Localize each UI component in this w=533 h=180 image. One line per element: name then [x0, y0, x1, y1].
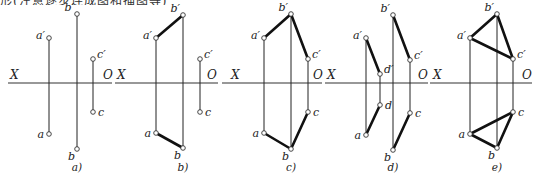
point-label-c: c	[205, 106, 211, 119]
point-label-c: c	[313, 106, 319, 119]
point-a-icon	[47, 132, 52, 137]
x-axis-label: X	[326, 68, 336, 82]
point-label-b-prime: b′	[64, 1, 74, 14]
panel-a: XOa′b′c′abca)	[8, 1, 113, 173]
point-label-a: a	[252, 127, 259, 140]
point-b-icon	[391, 148, 396, 153]
point-label-d-prime: d′	[384, 63, 394, 76]
edge-a-b	[156, 133, 183, 148]
point-c-icon	[408, 111, 413, 116]
edge-b_prime-c_prime	[393, 15, 410, 60]
point-a-icon	[262, 131, 267, 136]
point-label-a-prime: a′	[143, 29, 153, 42]
point-d-icon	[378, 103, 383, 108]
point-b-prime-icon	[75, 12, 80, 17]
point-b-icon	[495, 146, 500, 151]
point-label-a-prime: a′	[251, 29, 261, 42]
panel-d: XOa′d′b′c′adbcd)	[325, 2, 428, 173]
panel-caption: d)	[388, 161, 399, 173]
point-a-prime-icon	[262, 36, 267, 41]
panel-caption: b)	[178, 161, 189, 173]
point-a-icon	[468, 132, 473, 137]
point-label-a: a	[37, 128, 44, 141]
point-b-prime-icon	[495, 12, 500, 17]
point-label-a-prime: a′	[457, 29, 467, 42]
x-axis-label: X	[230, 68, 240, 82]
point-label-b-prime: b′	[278, 1, 288, 14]
point-a-prime-icon	[47, 36, 52, 41]
point-a-icon	[154, 131, 159, 136]
point-d-prime-icon	[378, 72, 383, 77]
point-b-prime-icon	[391, 13, 396, 18]
edge-b-c	[393, 113, 410, 150]
panel-caption: e)	[492, 161, 502, 173]
panel-c: XOa′b′c′abcc)	[222, 1, 323, 173]
point-c-prime-icon	[408, 58, 413, 63]
point-label-c-prime: c′	[204, 48, 213, 61]
x-axis-label: X	[9, 68, 19, 82]
panel-b: XOa′b′c′abcb)	[115, 2, 218, 173]
point-b-icon	[181, 146, 186, 151]
point-c-prime-icon	[306, 57, 311, 62]
point-label-c: c	[98, 106, 104, 119]
x-axis-label: X	[432, 68, 442, 82]
orthographic-projection-diagram: XOa′b′c′abca)XOa′b′c′abcb)XOa′b′c′abcc)X…	[0, 0, 533, 180]
point-label-a: a	[354, 129, 361, 142]
point-label-b-prime: b′	[170, 2, 180, 15]
x-axis-label: X	[116, 68, 126, 82]
point-a-prime-icon	[468, 36, 473, 41]
point-label-a: a	[458, 128, 465, 141]
origin-label: O	[522, 68, 532, 82]
point-b-prime-icon	[289, 12, 294, 17]
edge-b-c	[291, 112, 308, 149]
point-label-a-prime: a′	[36, 29, 46, 42]
edge-a_prime-b_prime	[264, 14, 291, 38]
point-label-a-prime: a′	[353, 29, 363, 42]
point-c-icon	[306, 110, 311, 115]
panel-caption: c)	[286, 161, 296, 173]
edge-a_prime-b_prime	[470, 14, 497, 38]
edge-a_prime-b_prime	[156, 15, 183, 38]
point-b-icon	[289, 147, 294, 152]
edge-a-b	[470, 134, 497, 148]
origin-label: O	[103, 68, 113, 82]
origin-label: O	[418, 68, 428, 82]
point-b-prime-icon	[181, 13, 186, 18]
point-label-c-prime: c′	[517, 48, 526, 61]
point-b-icon	[75, 147, 80, 152]
point-label-b-prime: b′	[484, 1, 494, 14]
point-a-prime-icon	[154, 36, 159, 41]
point-c-icon	[198, 110, 203, 115]
point-c-icon	[511, 110, 516, 115]
panel-caption: a)	[72, 161, 82, 173]
point-a-icon	[364, 133, 369, 138]
edge-a-c	[470, 112, 513, 134]
point-c-prime-icon	[511, 57, 516, 62]
origin-label: O	[207, 68, 217, 82]
edge-a-d	[366, 105, 380, 135]
edge-a-b	[264, 133, 291, 149]
origin-label: O	[313, 68, 323, 82]
edge-a_prime-d_prime	[366, 38, 380, 74]
point-label-c-prime: c′	[312, 48, 321, 61]
point-c-prime-icon	[91, 57, 96, 62]
point-label-b-prime: b′	[380, 2, 390, 15]
point-a-prime-icon	[364, 36, 369, 41]
point-label-c: c	[415, 107, 421, 120]
point-c-prime-icon	[198, 57, 203, 62]
edge-b_prime-c_prime	[291, 14, 308, 59]
point-c-icon	[91, 110, 96, 115]
panel-e: XOa′b′c′abce)	[430, 1, 532, 173]
point-label-c-prime: c′	[414, 49, 423, 62]
point-label-a: a	[144, 127, 151, 140]
point-label-c-prime: c′	[97, 48, 106, 61]
point-label-c: c	[518, 106, 524, 119]
point-label-d: d	[385, 99, 392, 112]
